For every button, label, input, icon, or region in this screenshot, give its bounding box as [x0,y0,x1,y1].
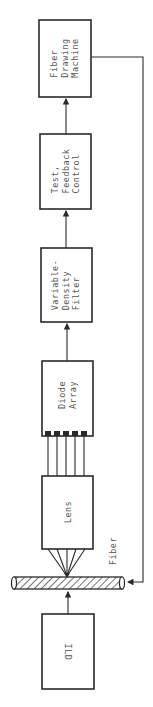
block-ild [42,614,94,689]
feedback-loop-line [91,57,143,582]
block-diode-array [42,361,93,436]
block-fiber-drawing-machine [39,20,91,97]
focused-rays [48,549,85,578]
diode-lens-lines [48,436,84,476]
fiber [12,577,125,589]
diagram-canvas [0,0,153,707]
block-test-feedback-control [40,134,91,209]
block-variable-density-filter [41,248,92,322]
block-lens [42,476,93,549]
